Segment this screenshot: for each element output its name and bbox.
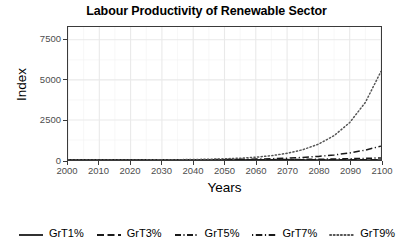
x-axis-title: Years xyxy=(67,180,382,195)
chart-legend: GrT1%GrT3%GrT5%GrT7%GrT9% xyxy=(0,221,413,245)
series-line-grt9pct xyxy=(68,71,381,160)
x-tick-label: 2100 xyxy=(360,165,404,176)
legend-item-grt3pct[interactable]: GrT3% xyxy=(96,227,162,239)
series-line-grt7pct xyxy=(68,146,381,160)
legend-item-grt5pct[interactable]: GrT5% xyxy=(174,227,240,239)
legend-item-grt9pct[interactable]: GrT9% xyxy=(329,227,395,239)
data-series-lines xyxy=(68,27,381,160)
plot-area xyxy=(67,26,382,161)
legend-line-swatch xyxy=(174,227,200,239)
legend-label: GrT7% xyxy=(282,227,317,239)
legend-label: GrT3% xyxy=(127,227,162,239)
x-axis-ticks: 2000201020202030204020502060207020802090… xyxy=(67,161,382,181)
legend-label: GrT1% xyxy=(49,227,84,239)
legend-item-grt1pct[interactable]: GrT1% xyxy=(18,227,84,239)
legend-item-grt7pct[interactable]: GrT7% xyxy=(251,227,317,239)
y-tick-label: 2500 xyxy=(23,114,61,125)
legend-line-swatch xyxy=(18,227,44,239)
legend-label: GrT5% xyxy=(205,227,240,239)
legend-line-swatch xyxy=(329,227,355,239)
legend-label: GrT9% xyxy=(360,227,395,239)
legend-line-swatch xyxy=(96,227,122,239)
chart-figure: Labour Productivity of Renewable Sector … xyxy=(0,0,413,248)
legend-line-swatch xyxy=(251,227,277,239)
chart-title: Labour Productivity of Renewable Sector xyxy=(0,4,413,18)
y-axis-ticks: 0250050007500 xyxy=(20,26,61,161)
y-tick-label: 5000 xyxy=(23,74,61,85)
y-tick-label: 7500 xyxy=(23,33,61,44)
